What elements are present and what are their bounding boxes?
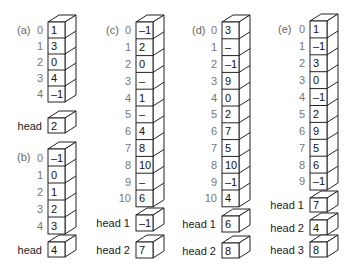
slot: 52 <box>280 105 327 122</box>
slot-value: 5 <box>310 142 327 154</box>
slot-index: 9 <box>192 176 217 188</box>
slot-value: 8 <box>136 142 153 154</box>
slot-index: 4 <box>18 220 43 232</box>
slot-index: 9 <box>106 176 131 188</box>
slot-value: –1 <box>310 40 327 52</box>
slot: 20 <box>18 54 65 70</box>
slot-index: 2 <box>280 57 305 69</box>
slot: 4–1 <box>280 89 327 106</box>
slot-value: 1 <box>48 186 65 198</box>
slot-index: 9 <box>280 175 305 187</box>
slot: 39 <box>192 72 239 89</box>
slot: 64 <box>106 123 153 140</box>
slot: 20 <box>106 56 153 73</box>
head-value: 7 <box>136 244 153 256</box>
slot: 52 <box>192 106 239 123</box>
slot-value: –1 <box>222 176 239 188</box>
slot: 810 <box>192 156 239 173</box>
slot-index: 7 <box>280 142 305 154</box>
slot-index: 3 <box>192 75 217 87</box>
slot: 75 <box>192 140 239 157</box>
slot: 4–1 <box>18 86 65 102</box>
slot: 34 <box>18 70 65 86</box>
head-value: 4 <box>310 222 327 234</box>
slot: 5– <box>106 106 153 123</box>
head-pointer-e-1: head 17 <box>260 198 327 212</box>
slot: 0–1 <box>18 149 65 166</box>
slot-value: 3 <box>310 57 327 69</box>
slot: 43 <box>18 217 65 234</box>
slot: 30 <box>280 72 327 89</box>
slot-value: 2 <box>48 203 65 215</box>
slot-index: 4 <box>280 91 305 103</box>
slot: 106 <box>106 190 153 207</box>
head-label: head 3 <box>260 244 304 256</box>
slot-index: 3 <box>18 203 43 215</box>
head-pointer-e-3: head 38 <box>260 242 327 257</box>
slot-index: 3 <box>280 74 305 86</box>
slot-value: – <box>136 75 153 87</box>
slot-index: 5 <box>106 108 131 120</box>
slot-value: 2 <box>310 108 327 120</box>
slot-index: 0 <box>18 24 43 36</box>
slot-value: 0 <box>222 92 239 104</box>
slot: 03 <box>192 22 239 39</box>
slot-index: 6 <box>280 125 305 137</box>
slot-index: 0 <box>280 23 305 35</box>
head-value: –1 <box>136 217 153 229</box>
slot-index: 2 <box>106 58 131 70</box>
slot: 9–1 <box>192 173 239 190</box>
slot: 86 <box>280 156 327 173</box>
slot-index: 4 <box>106 92 131 104</box>
head-value: 8 <box>222 245 239 257</box>
slot-index: 5 <box>192 108 217 120</box>
slot-index: 8 <box>280 159 305 171</box>
slot-value: 0 <box>48 169 65 181</box>
slot-value: –1 <box>310 175 327 187</box>
slot: 41 <box>106 89 153 106</box>
slot: 1–1 <box>280 38 327 55</box>
slot: 23 <box>280 55 327 72</box>
slot-index: 1 <box>18 169 43 181</box>
slot-value: 9 <box>222 75 239 87</box>
head-value: 4 <box>48 244 65 256</box>
slot-index: 6 <box>106 125 131 137</box>
slot: 69 <box>280 122 327 139</box>
slot-index: 10 <box>192 192 217 204</box>
slot: 21 <box>18 183 65 200</box>
slot-list-a: 01 13 20 34 4–1 <box>18 22 65 102</box>
slot-value: –1 <box>48 152 65 164</box>
head-pointer-e-2: head 24 <box>260 220 327 235</box>
slot-value: 1 <box>136 92 153 104</box>
slot-index: 7 <box>106 142 131 154</box>
slot-value: 0 <box>136 58 153 70</box>
slot-value: 1 <box>310 23 327 35</box>
slot: 78 <box>106 140 153 157</box>
head-label: head 1 <box>86 217 130 229</box>
slot-value: 10 <box>222 159 239 171</box>
head-label: head 2 <box>86 244 130 256</box>
slot-value: –1 <box>222 58 239 70</box>
slot-index: 10 <box>106 192 131 204</box>
slot-value: 3 <box>48 40 65 52</box>
slot-value: 10 <box>136 159 153 171</box>
head-pointer-b: head4 <box>0 242 65 257</box>
slot-index: 3 <box>106 75 131 87</box>
slot: 01 <box>18 22 65 38</box>
head-pointer-c-1: head 1–1 <box>86 215 153 231</box>
slot-value: 4 <box>222 192 239 204</box>
slot-index: 4 <box>18 88 43 100</box>
slot-value: 7 <box>222 125 239 137</box>
slot-value: 3 <box>48 220 65 232</box>
head-label: head <box>0 244 42 256</box>
slot-index: 0 <box>106 24 131 36</box>
slot-index: 4 <box>192 92 217 104</box>
slot-value: 3 <box>222 24 239 36</box>
slot: 2–1 <box>192 56 239 73</box>
slot-value: 5 <box>222 142 239 154</box>
slot: 1– <box>192 39 239 56</box>
slot-value: 9 <box>310 125 327 137</box>
head-pointer-d-1: head 16 <box>172 216 239 232</box>
slot-value: –1 <box>310 91 327 103</box>
slot-index: 1 <box>18 40 43 52</box>
